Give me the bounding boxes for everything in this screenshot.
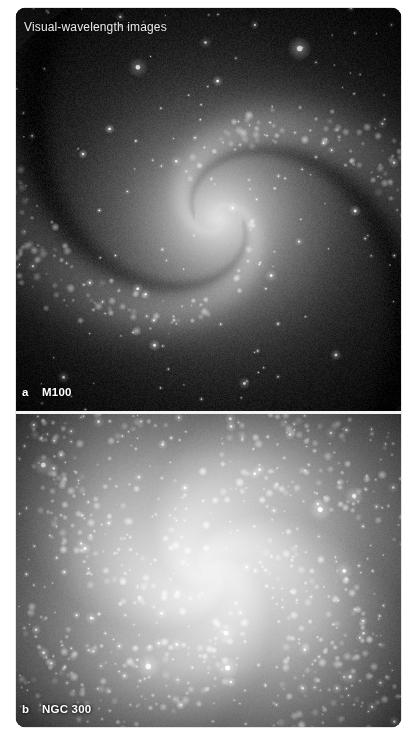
panel-b-object-name: NGC 300 — [42, 703, 91, 715]
figure-title: Visual-wavelength images — [24, 20, 167, 34]
panel-b-letter: b — [22, 703, 42, 715]
panel-a-m100: a M100 — [16, 8, 401, 412]
panel-divider — [16, 411, 401, 414]
panel-a-caption: a M100 — [22, 386, 72, 398]
figure-container: Visual-wavelength images a M100 b NGC 30… — [16, 8, 401, 727]
panel-a-letter: a — [22, 386, 42, 398]
panel-a-object-name: M100 — [42, 386, 72, 398]
galaxy-image-ngc300 — [16, 414, 401, 727]
panel-b-caption: b NGC 300 — [22, 703, 91, 715]
galaxy-image-m100 — [16, 8, 401, 412]
panel-b-ngc300: b NGC 300 — [16, 414, 401, 727]
